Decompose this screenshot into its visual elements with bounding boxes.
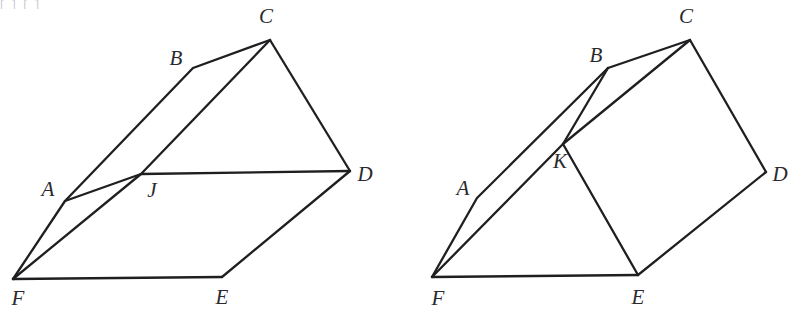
- edge-E-F: [13, 277, 222, 279]
- edge-F-A-B-C: [13, 40, 270, 279]
- vertex-label-e: E: [631, 285, 645, 309]
- edge-B-C: [608, 40, 690, 68]
- vertex-label-f: F: [431, 286, 445, 310]
- edge-F-J-C: [13, 40, 270, 279]
- vertex-label-d: D: [356, 162, 372, 186]
- vertex-label-a: A: [455, 176, 470, 200]
- vertex-label-c: C: [679, 4, 694, 28]
- edge-F-A-B: [432, 68, 608, 277]
- edge-F-K-B: [432, 68, 608, 277]
- edge-E-F: [432, 275, 638, 277]
- vertex-label-b: B: [590, 43, 603, 67]
- vertex-label-e: E: [215, 285, 229, 309]
- edge-D-E: [222, 171, 350, 277]
- vertex-label-d: D: [771, 162, 787, 186]
- edge-D-E: [638, 172, 766, 275]
- vertex-label-c: C: [259, 4, 274, 28]
- vertex-label-f: F: [11, 286, 25, 310]
- edge-A-J-D: [65, 171, 350, 201]
- edge-K-C: [563, 40, 690, 144]
- left-panel: ABCDEFJ: [11, 4, 373, 310]
- edge-C-D: [690, 40, 766, 172]
- vertex-label-a: A: [40, 177, 55, 201]
- vertex-label-j: J: [147, 178, 158, 202]
- geometry-diagram: ABCDEFJ ABCDEFK: [0, 0, 795, 318]
- edge-C-D: [270, 40, 350, 171]
- vertex-label-b: B: [170, 46, 183, 70]
- edge-K-E: [563, 144, 638, 275]
- vertex-label-k: K: [552, 149, 568, 173]
- right-panel: ABCDEFK: [431, 4, 788, 310]
